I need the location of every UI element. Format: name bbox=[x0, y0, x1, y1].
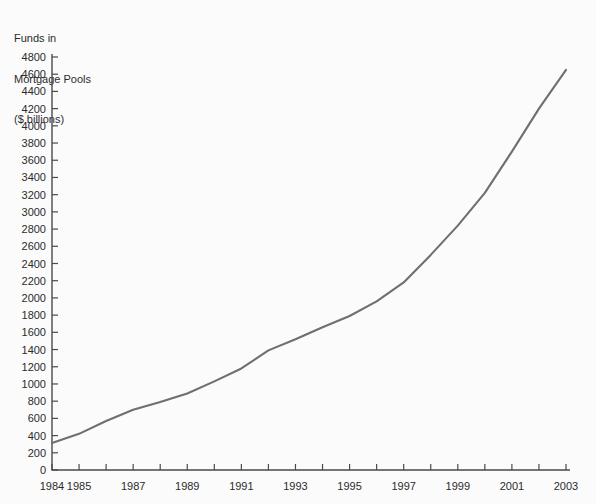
axis-lines bbox=[52, 54, 570, 470]
mortgage-pools-chart: Funds in Mortgage Pools ($ billions) 020… bbox=[0, 0, 596, 504]
y-tick-label: 4600 bbox=[22, 68, 46, 80]
y-tick-label: 1800 bbox=[22, 309, 46, 321]
x-tick-label: 1985 bbox=[67, 480, 91, 492]
y-tick-label: 3600 bbox=[22, 154, 46, 166]
chart-plot-area: 0200400600800100012001400160018002000220… bbox=[0, 0, 596, 504]
x-tick-label: 1993 bbox=[283, 480, 307, 492]
x-tick-label: 1984 bbox=[40, 480, 64, 492]
y-tick-label: 4000 bbox=[22, 120, 46, 132]
y-tick-label: 1400 bbox=[22, 344, 46, 356]
y-tick-label: 2600 bbox=[22, 240, 46, 252]
x-tick-label: 1989 bbox=[175, 480, 199, 492]
x-tick-label: 1987 bbox=[121, 480, 145, 492]
x-tick-label: 1997 bbox=[391, 480, 415, 492]
x-axis-ticks: 1984198519871989199119931995199719992001… bbox=[40, 464, 578, 492]
y-tick-label: 2200 bbox=[22, 275, 46, 287]
data-series-line bbox=[52, 70, 566, 443]
y-tick-label: 4800 bbox=[22, 51, 46, 63]
y-tick-label: 3400 bbox=[22, 171, 46, 183]
x-tick-label: 2003 bbox=[554, 480, 578, 492]
y-tick-label: 3200 bbox=[22, 189, 46, 201]
y-tick-label: 600 bbox=[28, 412, 46, 424]
y-tick-label: 3000 bbox=[22, 206, 46, 218]
y-tick-label: 3800 bbox=[22, 137, 46, 149]
y-tick-label: 200 bbox=[28, 447, 46, 459]
y-tick-label: 1200 bbox=[22, 361, 46, 373]
y-tick-label: 4200 bbox=[22, 103, 46, 115]
x-tick-label: 2001 bbox=[500, 480, 524, 492]
y-tick-label: 0 bbox=[40, 464, 46, 476]
y-tick-label: 4400 bbox=[22, 85, 46, 97]
y-tick-label: 1600 bbox=[22, 326, 46, 338]
x-tick-label: 1991 bbox=[229, 480, 253, 492]
y-tick-label: 2800 bbox=[22, 223, 46, 235]
x-tick-label: 1999 bbox=[446, 480, 470, 492]
y-tick-label: 800 bbox=[28, 395, 46, 407]
y-tick-label: 2000 bbox=[22, 292, 46, 304]
y-tick-label: 2400 bbox=[22, 258, 46, 270]
y-tick-label: 400 bbox=[28, 430, 46, 442]
x-tick-label: 1995 bbox=[337, 480, 361, 492]
y-tick-label: 1000 bbox=[22, 378, 46, 390]
